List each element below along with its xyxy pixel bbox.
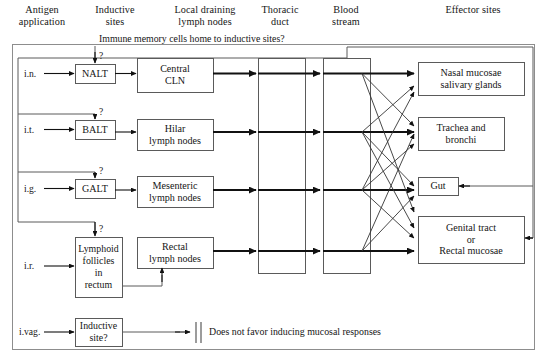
box-vaginal-inductive — [75, 318, 122, 346]
box-genital-rectal — [418, 216, 524, 263]
box-nalt — [75, 64, 115, 83]
box-central-cln — [137, 58, 213, 92]
diagram-vector-layer — [0, 0, 544, 359]
box-rectal-ln — [137, 237, 213, 268]
box-galt — [75, 179, 115, 198]
question-mark-nalt: ? — [99, 51, 103, 61]
application-label-it: i.t. — [24, 124, 34, 135]
column-blood-stream — [323, 58, 370, 273]
application-label-in: i.n. — [24, 68, 36, 79]
figure-frame — [12, 44, 534, 349]
question-mark-balt: ? — [99, 107, 103, 117]
does-not-favor-note: Does not favor inducing mucosal response… — [209, 326, 381, 337]
feedback-branch-galt — [18, 172, 95, 177]
box-mesenteric-ln — [137, 176, 213, 207]
box-nasal-mucosae — [418, 62, 524, 95]
box-gut — [418, 177, 458, 195]
box-hilar-ln — [137, 119, 213, 150]
figure-canvas: Antigen application Inductive sites Loca… — [0, 0, 544, 359]
question-mark-galt: ? — [99, 166, 103, 176]
line-rectum-to-rectal-ln — [122, 275, 162, 286]
application-label-ivag: i.vag. — [19, 326, 40, 337]
question-mark-rectum: ? — [99, 224, 103, 234]
application-label-ig: i.g. — [24, 183, 36, 194]
box-balt — [75, 120, 115, 139]
box-trachea — [418, 117, 504, 150]
feedback-branch-rectum — [18, 222, 95, 231]
application-label-ir: i.r. — [24, 260, 34, 271]
column-thoracic-duct — [258, 58, 305, 273]
box-rectum — [75, 237, 122, 297]
feedback-branch-balt — [18, 114, 95, 119]
